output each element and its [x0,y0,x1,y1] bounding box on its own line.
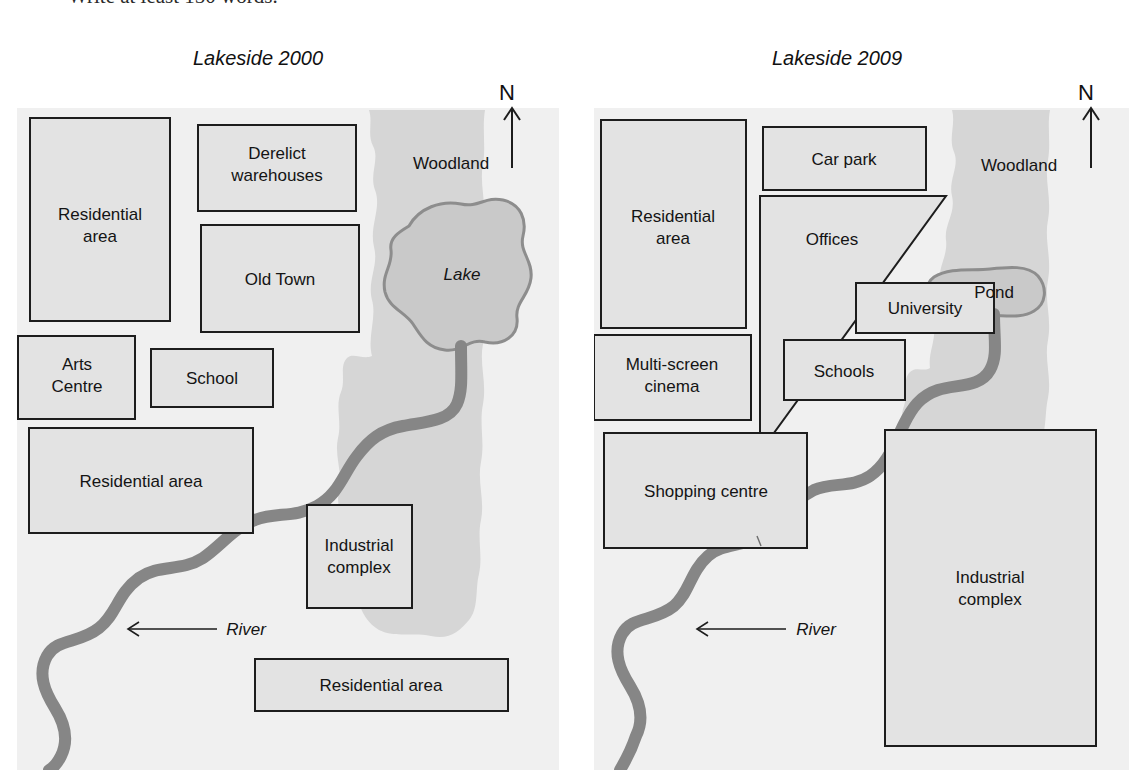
zone-label-industrial-complex-right-line2: complex [958,590,1022,609]
zone-label-industrial-complex-left-line1: Industrial [325,536,394,555]
zone-label-car-park: Car park [811,150,877,169]
zone-label-old-town: Old Town [245,270,316,289]
pond-label: Pond [974,283,1014,302]
zone-label-residential-area-west: Residential area [80,472,203,491]
lake-label: Lake [444,265,481,284]
zone-label-multi-screen-cinema-line1: Multi-screen [626,355,719,374]
worksheet-page: Write at least 150 words. Lakeside 2000 … [0,0,1129,770]
zone-label-offices: Offices [806,230,859,249]
zone-label-residential-area-northwest-line1: Residential [58,205,142,224]
cutoff-instruction-text: Write at least 150 words. [68,0,278,9]
zone-label-schools: Schools [814,362,874,381]
compass-arrow-right [1077,100,1105,170]
zone-label-multi-screen-cinema-line2: cinema [645,377,700,396]
zone-label-shopping-centre: Shopping centre [644,482,768,501]
zone-industrial-complex-right[interactable] [885,430,1096,746]
zone-label-industrial-complex-left-line2: complex [327,558,391,577]
zone-label-school: School [186,369,238,388]
zone-label-residential-area-northwest-2009-line1: Residential [631,207,715,226]
zone-label-residential-area-northwest-2009-line2: area [656,229,691,248]
compass-arrow-left [498,100,526,170]
woodland-label-left: Woodland [413,154,489,173]
river-label-left: River [226,620,267,639]
river-label-right: River [796,620,837,639]
zone-label-derelict-warehouses-line2: warehouses [230,166,323,185]
zone-label-residential-area-northwest-line2: area [83,227,118,246]
map-lakeside-2009: Residential area Car park Offices Univer… [594,108,1129,770]
woodland-label-right: Woodland [981,156,1057,175]
map-title-lakeside-2000: Lakeside 2000 [193,47,323,70]
zone-label-arts-centre-line2: Centre [51,377,102,396]
zone-industrial-complex-left[interactable] [307,505,412,608]
zone-label-derelict-warehouses-line1: Derelict [248,144,306,163]
map-title-lakeside-2009: Lakeside 2009 [772,47,902,70]
cutoff-instruction-line: Write at least 150 words. [0,0,420,16]
map-lakeside-2000: Residential area Derelict warehouses Old… [17,108,559,770]
zone-label-university: University [888,299,963,318]
zone-label-arts-centre-line1: Arts [62,355,92,374]
zone-label-industrial-complex-right-line1: Industrial [956,568,1025,587]
zone-label-residential-area-south: Residential area [320,676,443,695]
